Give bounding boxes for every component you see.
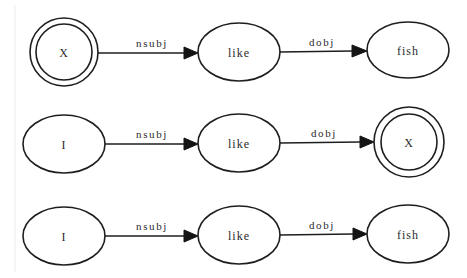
arrowhead-icon <box>184 138 198 150</box>
node-label: fish <box>397 44 419 58</box>
arrowhead-icon <box>353 228 367 240</box>
node-fish[interactable]: fish <box>367 205 449 263</box>
node-like[interactable]: like <box>198 114 280 172</box>
node-x-doublecircle[interactable]: X <box>30 18 98 86</box>
node-like[interactable]: like <box>198 23 280 81</box>
node-x-doublecircle[interactable]: X <box>374 107 444 177</box>
arrowhead-icon <box>184 47 198 59</box>
node-i[interactable]: I <box>23 207 105 265</box>
edge-label: dobj <box>309 36 335 48</box>
edge-label: nsubj <box>136 128 168 140</box>
node-label: I <box>62 230 67 244</box>
node-label: like <box>228 137 250 151</box>
edge-label: dobj <box>309 219 335 231</box>
edge-label: dobj <box>311 127 337 139</box>
edge-line <box>280 142 360 143</box>
node-label: fish <box>397 228 419 242</box>
node-label: X <box>59 46 69 60</box>
edge-dobj: dobj <box>280 219 367 240</box>
pattern-row-1: nsubj dobj X like fish <box>30 18 449 86</box>
edge-label: nsubj <box>136 220 168 232</box>
node-like[interactable]: like <box>198 206 280 264</box>
edge-nsubj: nsubj <box>105 128 198 150</box>
node-label: I <box>62 138 67 152</box>
node-label: like <box>228 46 250 60</box>
edge-dobj: dobj <box>280 36 367 57</box>
edge-nsubj: nsubj <box>98 37 198 59</box>
node-label: X <box>404 136 414 150</box>
node-i[interactable]: I <box>23 115 105 173</box>
edge-line <box>280 51 352 52</box>
arrowhead-icon <box>360 136 374 148</box>
edge-line <box>280 234 353 235</box>
arrowhead-icon <box>184 230 198 242</box>
edge-dobj: dobj <box>280 127 374 148</box>
dependency-diagram: nsubj dobj X like fish nsubj <box>0 0 467 278</box>
edge-nsubj: nsubj <box>105 220 198 242</box>
pattern-row-2: nsubj dobj I like X <box>23 107 444 177</box>
arrowhead-icon <box>352 45 367 57</box>
edge-label: nsubj <box>136 37 168 49</box>
node-label: like <box>228 229 250 243</box>
node-fish[interactable]: fish <box>367 22 449 78</box>
pattern-row-3: nsubj dobj I like fish <box>23 205 449 265</box>
